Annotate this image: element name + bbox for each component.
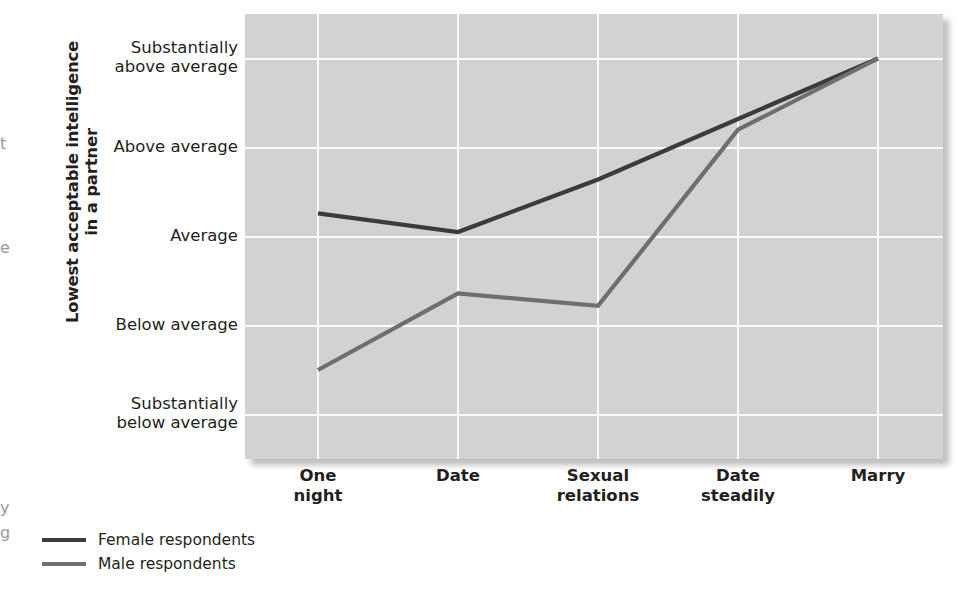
y-axis-tick-label: Above average	[70, 137, 238, 156]
y-axis-tick-label: Below average	[70, 315, 238, 334]
chart-figure: t e y g Lowest acceptable intelligence i…	[0, 0, 980, 604]
legend-line-swatch	[42, 562, 86, 566]
edge-text-fragment: g	[0, 523, 14, 542]
chart-legend: Female respondentsMale respondents	[42, 528, 372, 576]
x-axis-tick-label: One night	[294, 466, 343, 506]
y-axis-tick-label: Substantially below average	[70, 394, 238, 433]
legend-line-swatch	[42, 538, 86, 542]
x-axis-tick-label: Marry	[851, 466, 906, 486]
edge-text-fragment: y	[0, 498, 14, 517]
x-axis-tick-label: Date steadily	[701, 466, 775, 506]
series-line	[318, 59, 878, 371]
y-axis-tick-label: Average	[70, 226, 238, 245]
legend-item-label: Male respondents	[98, 555, 236, 573]
edge-text-fragment: e	[0, 238, 14, 257]
legend-item: Male respondents	[42, 552, 372, 576]
legend-item-label: Female respondents	[98, 531, 255, 549]
legend-item: Female respondents	[42, 528, 372, 552]
x-axis-tick-labels: One nightDateSexual relationsDate steadi…	[245, 466, 943, 522]
y-axis-tick-labels: Substantially above averageAbove average…	[70, 0, 238, 460]
y-axis-tick-label: Substantially above average	[70, 38, 238, 77]
plot-area	[245, 14, 943, 459]
series-lines	[245, 14, 943, 459]
x-axis-tick-label: Date	[436, 466, 480, 486]
series-line	[318, 59, 878, 233]
edge-text-fragment: t	[0, 134, 14, 153]
x-axis-tick-label: Sexual relations	[557, 466, 640, 506]
